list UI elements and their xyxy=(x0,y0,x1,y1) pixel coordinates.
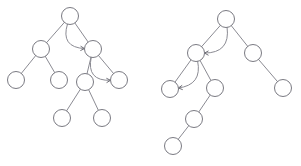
left-edge-root-to-l1 xyxy=(47,22,65,42)
right-tree-root-node xyxy=(218,11,235,28)
right-edge-l1-to-ll xyxy=(175,60,191,82)
right-edge-lrl-to-lrll xyxy=(178,126,189,140)
left-tree-node-rl xyxy=(77,74,94,91)
tree-diagram-canvas xyxy=(0,0,301,166)
right-edge-root-to-r1 xyxy=(231,26,247,47)
left-tree-leaf-rlr xyxy=(94,110,111,127)
nodes-layer xyxy=(8,8,292,155)
left-arc-root-to-r1 xyxy=(66,24,85,48)
right-tree-node-r1 xyxy=(245,45,262,62)
right-tree-node-lr xyxy=(207,80,224,97)
right-tree-node-l1 xyxy=(188,45,205,62)
right-edge-lr-to-lrl xyxy=(199,95,210,112)
right-tree-leaf-ll xyxy=(162,81,179,98)
right-arc-l1-to-ll xyxy=(178,61,198,88)
right-tree-leaf-rr xyxy=(275,80,292,97)
left-tree-leaf-lr xyxy=(51,72,68,89)
left-tree-leaf-rr xyxy=(111,72,128,89)
right-edge-l1-to-lr xyxy=(200,60,211,80)
right-edge-r1-to-rr xyxy=(259,59,278,81)
left-tree-node-r1 xyxy=(85,41,102,58)
left-edge-root-to-r1 xyxy=(75,23,88,42)
left-edge-rl-to-rll xyxy=(67,89,81,111)
left-edge-rl-to-rlr xyxy=(89,90,99,111)
right-arc-root-to-l1 xyxy=(205,27,228,53)
right-tree-node-lrl xyxy=(186,111,203,128)
left-edge-l1-to-ll xyxy=(21,56,35,74)
right-tree-leaf-lrll xyxy=(165,138,182,155)
left-edge-l1-to-lr xyxy=(45,56,54,72)
left-edge-r1-to-rr xyxy=(98,56,113,74)
left-arc-r1-to-rr xyxy=(90,57,110,80)
left-tree-leaf-ll xyxy=(8,72,25,89)
right-edge-root-to-l1 xyxy=(202,25,221,46)
left-tree-node-l1 xyxy=(33,41,50,58)
left-tree-root-node xyxy=(62,8,79,25)
left-tree-leaf-rll xyxy=(54,110,71,127)
